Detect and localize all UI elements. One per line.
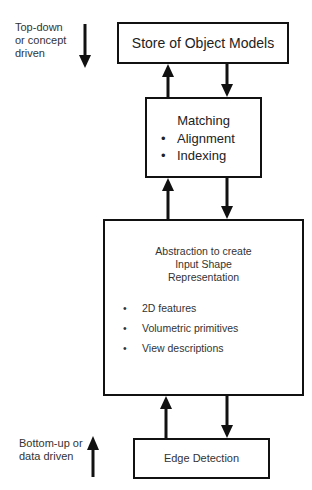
arrow-store-to-matching-icon bbox=[221, 64, 233, 97]
arrow-abstraction-to-matching-icon bbox=[162, 178, 174, 219]
top-down-arrow-icon bbox=[79, 24, 91, 68]
bottom-up-arrow-icon bbox=[87, 436, 99, 477]
connector-arrows bbox=[0, 0, 312, 490]
arrow-matching-to-store-icon bbox=[162, 64, 174, 97]
arrow-edge-to-abstraction-icon bbox=[160, 396, 172, 438]
arrow-abstraction-to-edge-icon bbox=[221, 396, 233, 438]
arrow-matching-to-abstraction-icon bbox=[221, 178, 233, 219]
